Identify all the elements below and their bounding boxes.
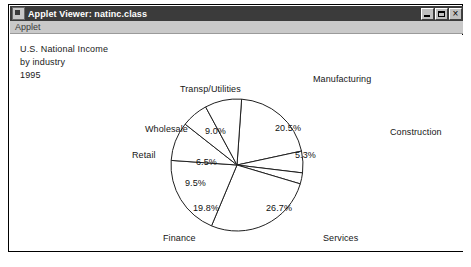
pie-chart: 20.5%5.3%26.7%19.8%9.5%6.5%9.0%Manufactu…: [10, 35, 463, 251]
menu-item-applet[interactable]: Applet: [10, 21, 46, 33]
pie-slice-percentage: 20.5%: [275, 123, 301, 133]
pie-slice-label: Wholesale: [145, 124, 188, 134]
applet-icon: [12, 7, 25, 20]
pie-slice-percentage: 5.3%: [295, 150, 316, 160]
pie-slice-percentage: 6.5%: [196, 157, 217, 167]
pie-slice-label: Services: [323, 233, 358, 243]
maximize-icon[interactable]: [435, 8, 448, 20]
pie-slice-label: Retail: [132, 150, 156, 160]
pie-chart-svg: [10, 35, 463, 251]
minimize-icon[interactable]: [421, 8, 434, 20]
applet-canvas: U.S. National Income by industry 1995 20…: [10, 35, 463, 251]
window-title-bar[interactable]: Applet Viewer: natinc.class: [10, 6, 463, 21]
applet-viewer-window: Applet Viewer: natinc.class Applet U.S. …: [8, 4, 463, 252]
pie-slice-label: Construction: [390, 127, 442, 137]
window-title: Applet Viewer: natinc.class: [28, 9, 420, 19]
pie-slice-label: Finance: [163, 233, 196, 243]
menu-bar: Applet: [10, 21, 463, 34]
pie-slice-label: Transp/Utilities: [180, 84, 241, 94]
pie-slice-percentage: 19.8%: [193, 203, 219, 213]
pie-slice-label: Manufacturing: [313, 74, 371, 84]
pie-slice-percentage: 26.7%: [266, 203, 292, 213]
pie-slice-percentage: 9.0%: [205, 126, 226, 136]
pie-slice-percentage: 9.5%: [185, 178, 206, 188]
close-icon[interactable]: [449, 8, 462, 20]
